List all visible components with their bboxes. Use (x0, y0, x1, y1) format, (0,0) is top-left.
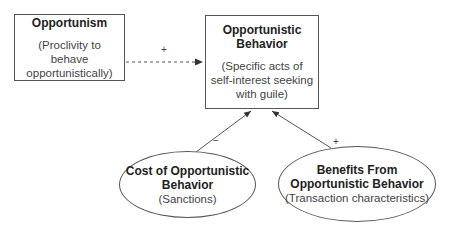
node-subtitle: (Sanctions) (158, 192, 216, 206)
node-opportunistic-behavior: Opportunistic Behavior (Specific acts of… (205, 15, 319, 109)
node-title: Benefits From Opportunistic Behavior (287, 163, 427, 191)
edge-cost-to-behavior (196, 111, 251, 152)
edge-benefits-to-behavior (272, 111, 331, 148)
edge-label-plus: + (333, 136, 339, 147)
node-subtitle: (Proclivity to behave opportunistically) (15, 38, 124, 80)
node-opportunism: Opportunism (Proclivity to behave opport… (14, 14, 125, 81)
node-title: Cost of Opportunistic Behavior (123, 164, 253, 192)
node-subtitle: (Transaction characteristics) (285, 191, 429, 205)
node-title: Opportunism (32, 16, 107, 30)
node-title: Opportunistic Behavior (222, 23, 302, 51)
node-benefits: Benefits From Opportunistic Behavior (Tr… (278, 146, 436, 222)
node-cost: Cost of Opportunistic Behavior (Sanction… (119, 151, 256, 218)
edge-label-plus: + (161, 44, 167, 55)
node-subtitle: (Specific acts of self-interest seeking … (206, 59, 318, 101)
edge-label-minus: − (213, 135, 219, 146)
